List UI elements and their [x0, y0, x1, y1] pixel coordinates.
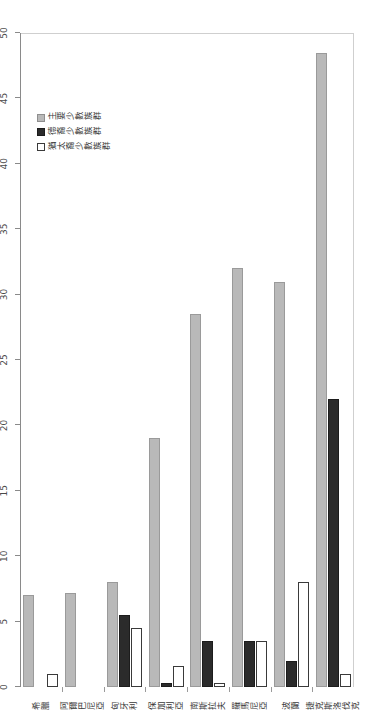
chart-canvas: 05101520253035404550 希臘阿爾巴尼亞匈牙利保加利亞南斯拉夫羅… [0, 0, 374, 725]
bar-row [298, 33, 309, 687]
bar-row [316, 33, 327, 687]
category-label: 羅馬尼亞 [229, 691, 271, 723]
bar [286, 661, 297, 687]
bar [173, 666, 184, 687]
bar-group: 波蘭 [271, 33, 313, 687]
bar-row [286, 33, 297, 687]
bar [161, 683, 172, 687]
bar [131, 628, 142, 687]
bar-group: 保加利亞 [145, 33, 187, 687]
legend-swatch [37, 114, 45, 122]
bar [149, 438, 160, 687]
legend-label: 德裔少數族群 [48, 128, 102, 137]
bar-row [202, 33, 213, 687]
axis-tick-label: 5 [0, 609, 9, 635]
axis-tick-label: 35 [0, 216, 9, 242]
bar [214, 683, 225, 687]
bar-row [173, 33, 184, 687]
bar [316, 53, 327, 687]
category-label: 保加利亞 [145, 691, 187, 723]
category-label: 匈牙利 [104, 691, 146, 723]
axis-tick-label: 40 [0, 151, 9, 177]
bar [232, 268, 243, 687]
axis-tick-label: 20 [0, 412, 9, 438]
category-label: 阿爾巴尼亞 [62, 691, 104, 723]
bar-row [256, 33, 267, 687]
bar-row [232, 33, 243, 687]
bar-row [340, 33, 351, 687]
legend-item: 猶太裔少數族群 [36, 143, 111, 152]
legend-swatch [37, 143, 45, 151]
bar-row [244, 33, 255, 687]
axis-tick-label: 25 [0, 347, 9, 373]
bar-row [328, 33, 339, 687]
bar [190, 314, 201, 687]
bar [23, 595, 34, 687]
bar-row [161, 33, 172, 687]
bar-group: 捷克斯洛伐克 [312, 33, 354, 687]
axis-tick-label: 45 [0, 85, 9, 111]
axis-tick-label: 0 [0, 674, 9, 700]
axis-tick-label: 50 [0, 20, 9, 46]
bar [202, 641, 213, 687]
legend-swatch [37, 128, 45, 136]
legend-label: 猶太裔少數族群 [48, 143, 111, 152]
category-label: 希臘 [20, 691, 62, 723]
bar [244, 641, 255, 687]
legend-item: 德裔少數族群 [36, 128, 111, 137]
bar [328, 399, 339, 687]
bar-row [274, 33, 285, 687]
bar [256, 641, 267, 687]
bar-row [214, 33, 225, 687]
axis-tick-label: 30 [0, 282, 9, 308]
axis-tick-label: 15 [0, 478, 9, 504]
plot-area: 05101520253035404550 希臘阿爾巴尼亞匈牙利保加利亞南斯拉夫羅… [20, 33, 354, 687]
bar-row [149, 33, 160, 687]
bar-group: 羅馬尼亞 [229, 33, 271, 687]
bar [298, 582, 309, 687]
bar-row [131, 33, 142, 687]
category-label: 捷克斯洛伐克 [312, 691, 354, 723]
bar [340, 674, 351, 687]
legend-label: 主要少數族群 [48, 113, 102, 122]
chart-legend: 主要少數族群德裔少數族群猶太裔少數族群 [36, 113, 116, 158]
bar [274, 282, 285, 687]
legend-item: 主要少數族群 [36, 113, 111, 122]
bar-group: 南斯拉夫 [187, 33, 229, 687]
bar [107, 582, 118, 687]
bar [47, 674, 58, 687]
bar-row [119, 33, 130, 687]
axis-tick-label: 10 [0, 543, 9, 569]
bar-row [190, 33, 201, 687]
category-label: 南斯拉夫 [187, 691, 229, 723]
bar-row [23, 33, 34, 687]
bar [119, 615, 130, 687]
bar [65, 593, 76, 687]
